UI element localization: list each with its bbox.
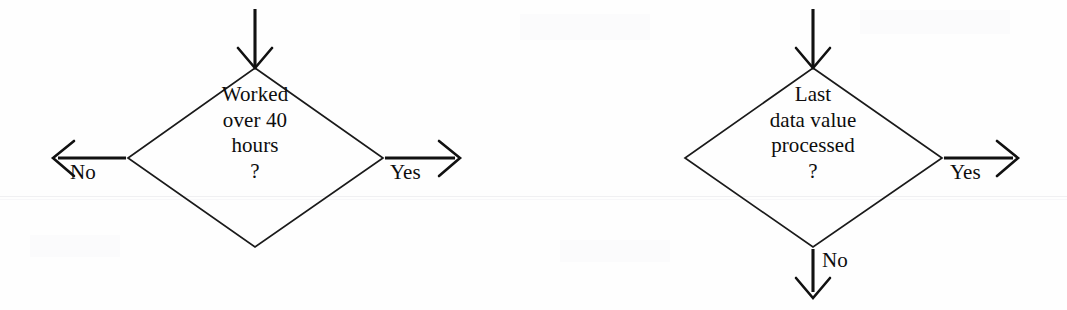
node-line: ? <box>713 159 913 185</box>
node-line: ? <box>155 159 355 185</box>
node-line: Last <box>713 82 913 108</box>
edge-label-left-diamond-yes: Yes <box>390 161 421 183</box>
diamond-worked-over-40-hours-label: Worked over 40 hours ? <box>155 82 355 184</box>
node-line: processed <box>713 133 913 159</box>
node-line: hours <box>155 133 355 159</box>
edge-label-left-diamond-no: No <box>70 161 96 183</box>
edge-label-right-diamond-no: No <box>822 249 848 271</box>
flowchart-page: Worked over 40 hours ? Last data value p… <box>0 0 1067 310</box>
node-line: data value <box>713 108 913 134</box>
node-line: Worked <box>155 82 355 108</box>
diamond-last-data-value-processed-label: Last data value processed ? <box>713 82 913 184</box>
node-line: over 40 <box>155 108 355 134</box>
edge-label-right-diamond-yes: Yes <box>950 161 981 183</box>
